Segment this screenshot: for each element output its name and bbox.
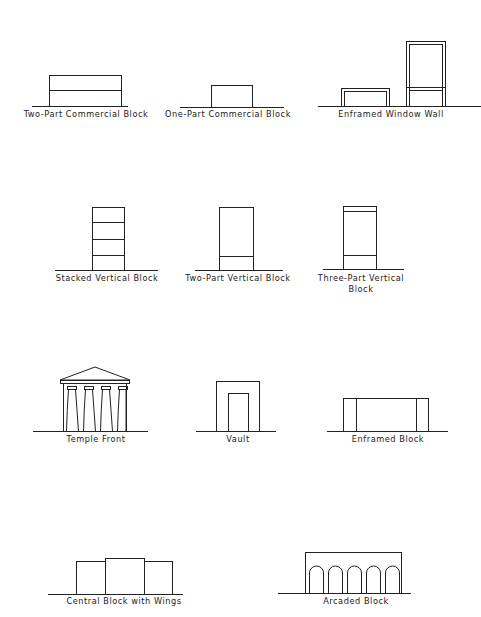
label-vault: Vault	[213, 434, 263, 444]
diagram-central-block-wings	[48, 559, 183, 595]
label-central-block-wings: Central Block with Wings	[58, 596, 190, 606]
diagram-one-part-commercial	[180, 86, 284, 108]
label-temple-front: Temple Front	[50, 434, 142, 444]
diagram-enframed-block	[327, 399, 448, 432]
diagram-temple-front	[33, 367, 148, 432]
diagram-enframed-window-wall	[318, 42, 481, 107]
diagram-three-part-vertical	[323, 207, 404, 270]
diagram-two-part-vertical	[195, 208, 283, 271]
label-three-part-vertical: Three-Part Vertical	[303, 273, 419, 283]
label-two-part-vertical: Two-Part Vertical Block	[175, 273, 301, 283]
label-stacked-vertical: Stacked Vertical Block	[42, 273, 172, 283]
building-type-diagrams	[0, 0, 481, 617]
label-arcaded-block: Arcaded Block	[315, 596, 397, 606]
label-enframed-window-wall: Enframed Window Wall	[330, 109, 452, 119]
label-one-part-commercial: One-Part Commercial Block	[162, 109, 294, 119]
label-two-part-commercial: Two-Part Commercial Block	[18, 109, 154, 119]
label-enframed-block: Enframed Block	[340, 434, 436, 444]
diagram-stacked-vertical	[55, 208, 158, 271]
label-three-part-vertical-line2: Block	[303, 284, 419, 294]
diagram-arcaded-block	[278, 553, 411, 594]
diagram-vault	[196, 382, 276, 432]
diagram-two-part-commercial	[32, 76, 128, 107]
